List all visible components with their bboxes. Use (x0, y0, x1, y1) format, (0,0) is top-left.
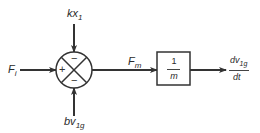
output-fraction-bar (229, 70, 249, 71)
sign-top: − (71, 53, 77, 64)
output-numerator-symbol: dv (230, 55, 240, 65)
label-kx1: kx1 (67, 8, 82, 22)
sign-left: + (59, 64, 65, 75)
label-fi-subscript: i (15, 69, 17, 78)
label-fm: Fm (128, 56, 141, 70)
label-bv1g: bv1g (64, 116, 85, 130)
sign-bottom: − (71, 75, 77, 86)
block-denominator: m (157, 72, 191, 81)
label-kx1-symbol: kx (67, 7, 78, 19)
label-bv1g-symbol: bv (64, 115, 76, 127)
output-denominator: dt (233, 73, 241, 82)
block-numerator: 1 (157, 57, 191, 66)
block-fraction-bar (167, 69, 180, 70)
label-fi-symbol: F (8, 63, 15, 75)
label-fm-subscript: m (135, 61, 142, 70)
label-fi: Fi (8, 64, 17, 78)
label-fm-symbol: F (128, 55, 135, 67)
output-numerator-subscript: 1g (240, 60, 248, 67)
output-numerator: dv1g (230, 56, 247, 67)
label-bv1g-subscript: 1g (76, 121, 85, 130)
label-kx1-subscript: 1 (78, 13, 82, 22)
